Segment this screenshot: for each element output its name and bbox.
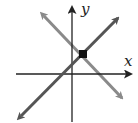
increasing-line: [21, 18, 118, 116]
y-axis-label: y: [80, 0, 90, 18]
x-axis-label: x: [124, 52, 133, 70]
intersection-point-marker: [79, 50, 87, 58]
diagram-svg: y x: [0, 0, 138, 123]
coordinate-plane-diagram: y x: [0, 0, 138, 123]
